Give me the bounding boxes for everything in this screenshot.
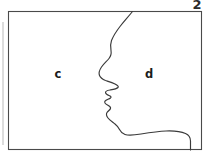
- corner-page-number: 2: [192, 0, 201, 12]
- profile-illusion-figure: c d 2: [0, 0, 210, 158]
- figure-container: c d 2: [0, 0, 210, 158]
- region-label-c: c: [55, 67, 62, 81]
- region-label-d: d: [145, 67, 153, 81]
